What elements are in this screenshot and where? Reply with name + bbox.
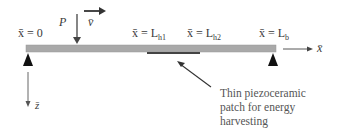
label-lb: x̄ = Lb bbox=[259, 26, 289, 42]
annotation-line-2: patch for energy bbox=[220, 100, 337, 114]
left-support-icon bbox=[23, 53, 33, 66]
label-lh2: x̄ = Lh2 bbox=[187, 26, 221, 42]
label-load-p: P bbox=[59, 15, 66, 30]
annotation-line-1: Thin piezoceramic bbox=[220, 86, 337, 100]
label-lh1: x̄ = Lh1 bbox=[132, 26, 166, 42]
annotation-arrow-icon bbox=[180, 64, 211, 87]
right-support-icon bbox=[268, 53, 278, 66]
piezo-patch bbox=[147, 52, 200, 54]
label-x0: x̄ = 0 bbox=[18, 26, 43, 41]
label-velocity: v̄ bbox=[88, 15, 93, 30]
label-x-axis: x̄ bbox=[317, 41, 322, 56]
label-z-axis: z̄ bbox=[35, 99, 39, 111]
piezo-annotation: Thin piezoceramic patch for energy harve… bbox=[220, 86, 337, 128]
annotation-line-3: harvesting bbox=[220, 114, 337, 128]
beam bbox=[26, 45, 276, 52]
